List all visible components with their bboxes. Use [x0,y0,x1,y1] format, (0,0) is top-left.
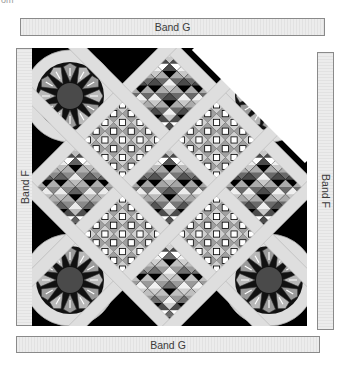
band-f-left-label: Band F [19,170,31,204]
cut-off-text-fragment: om [1,0,14,5]
band-g-top: Band G [20,18,325,36]
band-g-top-label: Band G [155,21,191,33]
band-f-left: Band F [16,48,33,326]
band-f-right-label: Band F [320,174,332,208]
band-g-bottom-label: Band G [150,339,186,351]
band-f-right: Band F [317,52,334,330]
quilt-diagram [32,48,307,326]
band-g-bottom: Band G [16,336,320,353]
